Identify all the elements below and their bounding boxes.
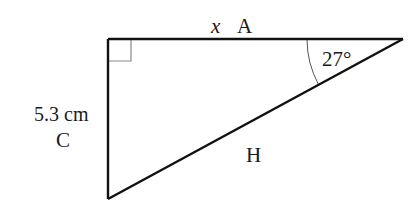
label-angle: 27° <box>322 47 351 71</box>
right-angle-marker <box>108 39 131 61</box>
label-length: 5.3 cm <box>34 103 89 125</box>
triangle-diagram: x A 27° 5.3 cm C H <box>0 0 419 222</box>
angle-arc <box>307 39 319 85</box>
label-x: x <box>210 14 221 38</box>
label-A: A <box>237 14 253 38</box>
label-H: H <box>246 143 261 167</box>
label-C: C <box>56 128 70 152</box>
side-hypotenuse-H <box>108 39 403 199</box>
